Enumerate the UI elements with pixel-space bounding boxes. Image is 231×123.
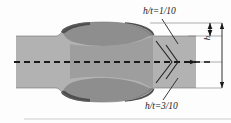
top-ratio-label: h/t=1/10 — [143, 6, 176, 16]
figure-container: h/t=1/10 h/t=3/10 h — [0, 0, 231, 123]
dimension-arrow-overall-top — [220, 23, 224, 29]
bottom-ratio-label: h/t=3/10 — [145, 101, 178, 111]
height-dimension-label: h — [202, 36, 212, 41]
dimension-arrow-h-up — [208, 23, 213, 29]
cross-section-drawing — [0, 0, 231, 123]
dimension-arrow-overall-bottom — [220, 82, 224, 88]
